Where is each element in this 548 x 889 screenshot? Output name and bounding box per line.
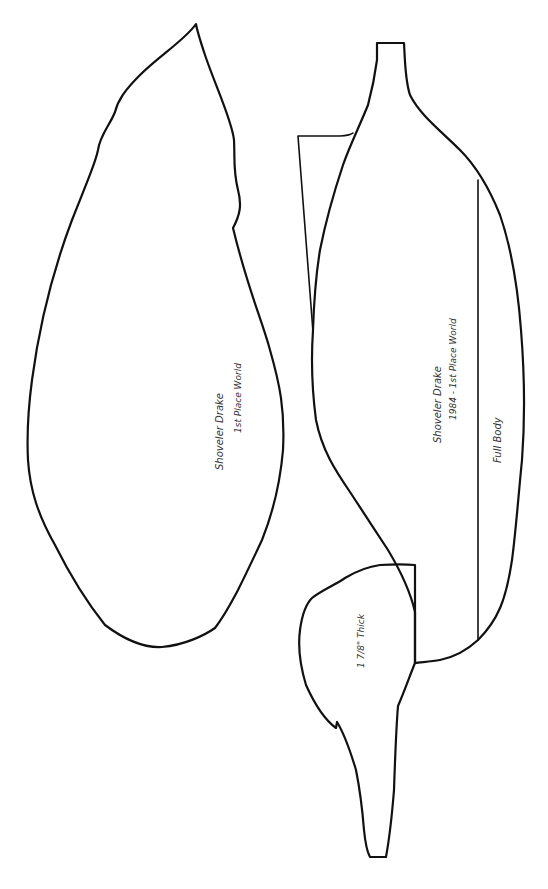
head-outline [299,564,415,857]
top-view-label-award: 1st Place World [232,363,244,433]
full-body-label: Full Body [492,417,504,463]
side-view-label-award: 1984 - 1st Place World [447,318,459,420]
head-thickness-label: 1 7/8" Thick [355,614,367,668]
top-view-body-outline [28,24,284,647]
side-view-label-title: Shoveler Drake [432,366,444,443]
pattern-canvas [0,0,548,889]
top-view-label-title: Shoveler Drake [214,393,226,470]
